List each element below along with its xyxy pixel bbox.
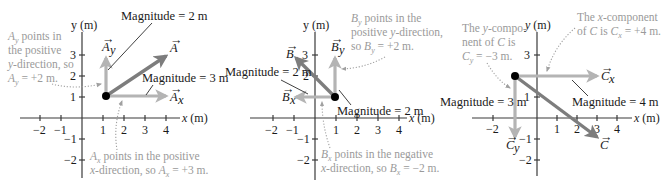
magnitude-ax-label: Magnitude = 3 m [142, 71, 229, 85]
svg-text:The y-compo-: The y-compo- [462, 22, 527, 35]
vector-components-figure: y (m) x (m) −2 −1 1 2 3 4 3 2 1 −1 −2 [0, 0, 671, 190]
panel-a: y (m) x (m) −2 −1 1 2 3 4 3 2 1 −1 −2 [7, 9, 229, 179]
svg-text:The x-component: The x-component [577, 11, 659, 24]
svg-text:−2: −2 [297, 153, 310, 167]
svg-text:2: 2 [70, 69, 76, 83]
svg-text:Ay = +2 m.: Ay = +2 m. [7, 72, 58, 87]
magnitude-cy-label: Magnitude = 3 m [440, 95, 527, 109]
note-by: By points in the positive y-direction, s… [351, 12, 443, 55]
tail-point [331, 93, 339, 101]
svg-text:x-direction, so Ax = +3 m.: x-direction, so Ax = +3 m. [89, 164, 209, 179]
svg-text:3: 3 [375, 123, 381, 137]
vector-c-label: C → [600, 130, 613, 152]
svg-text:nent of C is: nent of C is [462, 36, 516, 48]
y-axis-label: y (m) [524, 18, 551, 32]
svg-text:Bx points in the negative: Bx points in the negative [321, 148, 433, 163]
note-ax: Ax points in the positive x-direction, s… [89, 150, 209, 179]
svg-text:of C is Cx = +4 m.: of C is Cx = +4 m. [577, 25, 661, 40]
svg-text:−1: −1 [519, 132, 532, 146]
svg-text:x-direction, so Bx = −2 m.: x-direction, so Bx = −2 m. [320, 162, 440, 177]
svg-text:3: 3 [142, 123, 148, 137]
svg-text:→: → [170, 33, 183, 47]
svg-text:→: → [601, 61, 614, 75]
svg-text:4: 4 [396, 123, 402, 137]
y-axis-label: y (m) [303, 18, 329, 32]
svg-text:1: 1 [333, 123, 339, 137]
leader-line [146, 85, 153, 95]
magnitude-ay-label: Magnitude = 2 m [121, 9, 208, 23]
svg-text:−1: −1 [64, 132, 77, 146]
svg-text:−2: −2 [486, 122, 499, 136]
magnitude-cx-label: Magnitude = 4 m [572, 95, 659, 109]
magnitude-by-label: Magnitude = 2 m [337, 104, 424, 118]
svg-text:the positive: the positive [8, 44, 61, 57]
svg-text:→: → [600, 130, 613, 144]
svg-text:→: → [286, 39, 299, 53]
svg-text:4: 4 [163, 123, 169, 137]
svg-text:2: 2 [354, 123, 360, 137]
pointer-arrow [547, 28, 575, 71]
svg-text:→: → [102, 32, 115, 46]
svg-text:Ay points in: Ay points in [7, 30, 62, 45]
y-axis-label: y (m) [71, 18, 97, 32]
component-cx-label: C x → [601, 61, 615, 86]
svg-text:−2: −2 [265, 123, 278, 137]
svg-text:−2: −2 [33, 123, 46, 137]
pointer-arrow [322, 102, 330, 148]
leader-line [572, 80, 588, 96]
svg-text:1: 1 [70, 90, 76, 104]
svg-text:3: 3 [302, 48, 308, 62]
svg-text:1: 1 [554, 122, 560, 136]
x-axis-label: x (m) [181, 111, 208, 125]
component-cy-label: C y → [506, 130, 520, 155]
svg-text:1: 1 [100, 123, 106, 137]
pointer-arrow [52, 84, 101, 87]
vector-a-label: A → [169, 33, 183, 55]
pointer-arrow [342, 57, 385, 69]
component-ay-label: A y → [101, 32, 116, 57]
note-cx: The x-component of C is Cx = +4 m. [577, 11, 661, 40]
svg-text:By points in the: By points in the [351, 12, 421, 27]
svg-text:3: 3 [524, 48, 530, 62]
svg-text:2: 2 [121, 123, 127, 137]
svg-text:→: → [331, 32, 344, 46]
magnitude-bx-label: Magnitude = 2 m [225, 65, 312, 79]
component-bx-label: B x → [282, 82, 296, 107]
note-bx: Bx points in the negative x-direction, s… [320, 148, 440, 177]
svg-text:Ax points in the positive: Ax points in the positive [89, 150, 200, 165]
note-ay: Ay points in the positive y-direction, s… [7, 30, 74, 87]
tail-point [102, 92, 110, 100]
svg-text:→: → [506, 130, 519, 144]
svg-text:−2: −2 [64, 153, 77, 167]
panel-c: y (m) x (m) −2 1 2 3 4 3 1 −1 −2 C → [440, 11, 661, 176]
svg-text:Cy = −3 m.: Cy = −3 m. [462, 50, 513, 65]
svg-text:so By = +2 m.: so By = +2 m. [351, 40, 414, 55]
x-axis-label: x (m) [633, 111, 660, 125]
pointer-arrow [487, 63, 510, 88]
component-by-label: B y → [331, 32, 345, 57]
component-ax-label: A x → [169, 82, 184, 107]
leader-line [339, 90, 351, 105]
tail-point [511, 72, 519, 80]
svg-text:positive y-direction,: positive y-direction, [351, 26, 443, 39]
note-cy: The y-compo- nent of C is Cy = −3 m. [462, 22, 527, 65]
svg-text:y-direction, so: y-direction, so [7, 58, 74, 71]
svg-text:−1: −1 [297, 132, 310, 146]
panel-b: y (m) x (m) −2 −1 1 2 3 4 3 2 −1 −2 B → [225, 12, 443, 180]
svg-text:4: 4 [614, 122, 620, 136]
svg-text:−2: −2 [519, 153, 532, 167]
